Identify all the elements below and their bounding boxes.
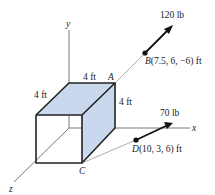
line-a-to-b bbox=[115, 53, 145, 83]
point-a-label: A bbox=[107, 72, 114, 82]
point-d-dot bbox=[133, 137, 138, 142]
point-d-coords: (10, 3, 6) ft bbox=[139, 144, 182, 155]
dimension-height: 4 ft bbox=[119, 97, 132, 107]
force-arrow-d bbox=[136, 125, 168, 140]
diagram-canvas: y x z 4 ft 4 ft 4 ft A C 120 lb B(7.5, 6… bbox=[0, 0, 215, 195]
dimension-depth: 4 ft bbox=[34, 90, 47, 100]
y-axis-label: y bbox=[65, 19, 71, 29]
force-b-magnitude: 120 lb bbox=[160, 10, 184, 20]
force-d-point: D(10, 3, 6) ft bbox=[131, 144, 182, 155]
force-d-magnitude: 70 lb bbox=[160, 108, 180, 118]
x-axis-label: x bbox=[191, 123, 197, 133]
force-b-point: B(7.5, 6, −6) ft bbox=[145, 56, 202, 67]
point-c-label: C bbox=[79, 166, 86, 176]
point-b-coords: (7.5, 6, −6) ft bbox=[151, 56, 202, 67]
point-b-dot bbox=[142, 50, 147, 55]
point-d-name: D bbox=[131, 144, 139, 154]
dimension-top-back: 4 ft bbox=[83, 72, 96, 82]
z-axis-label: z bbox=[8, 184, 13, 194]
force-arrow-b bbox=[145, 29, 169, 53]
z-axis bbox=[14, 128, 69, 182]
